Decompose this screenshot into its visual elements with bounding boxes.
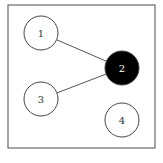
node-label: 4 [119,115,125,126]
node-3: 3 [24,82,58,116]
node-2: 2 [105,51,139,85]
node-label: 2 [119,63,125,74]
node-label: 3 [38,94,44,105]
node-label: 1 [38,28,44,39]
node-4: 4 [105,103,139,137]
graph-diagram: 1234 [0,0,163,163]
node-1: 1 [24,16,58,50]
